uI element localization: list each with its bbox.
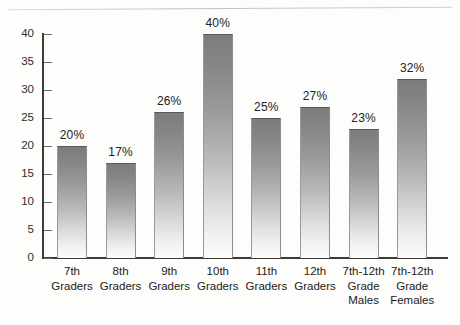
bar-value-label: 40% (195, 17, 241, 29)
y-axis-tick-label-wrap: 30 (4, 90, 34, 91)
category-label-line: Grade (381, 279, 443, 294)
bar (251, 118, 281, 258)
y-axis-tick (44, 174, 52, 175)
y-axis-tick-label: 20 (8, 140, 34, 152)
y-axis-tick (44, 90, 52, 91)
x-axis-line (42, 257, 448, 259)
bar (300, 107, 330, 258)
y-axis-tick-label: 30 (8, 84, 34, 96)
plot-area: 0510152025303540 20%17%26%40%25%27%23%32… (0, 0, 460, 325)
y-axis-tick (44, 146, 52, 147)
bar-value-label: 17% (98, 146, 144, 158)
bar (397, 79, 427, 258)
y-axis-tick-label-wrap: 0 (4, 258, 34, 259)
bar-value-label: 20% (49, 129, 95, 141)
y-axis-tick-label: 35 (8, 56, 34, 68)
bar-value-label: 25% (243, 101, 289, 113)
y-axis-tick-label-wrap: 5 (4, 230, 34, 231)
bar (203, 34, 233, 258)
y-axis-tick-label-wrap: 40 (4, 34, 34, 35)
bar-value-label: 27% (292, 90, 338, 102)
y-axis-tick (44, 62, 52, 63)
y-axis-tick (44, 258, 52, 259)
y-axis-tick-label-wrap: 25 (4, 118, 34, 119)
bar (154, 112, 184, 258)
bar-value-label: 23% (341, 112, 387, 124)
category-label-line: Females (381, 293, 443, 308)
y-axis-tick (44, 202, 52, 203)
y-axis-tick-label: 15 (8, 168, 34, 180)
y-axis-tick-label-wrap: 20 (4, 146, 34, 147)
y-axis-tick-label: 10 (8, 196, 34, 208)
y-axis-tick-label-wrap: 10 (4, 202, 34, 203)
bar-chart-figure: 0510152025303540 20%17%26%40%25%27%23%32… (0, 0, 460, 325)
y-axis-tick (44, 118, 52, 119)
bar (349, 129, 379, 258)
y-axis-tick (44, 34, 52, 35)
y-axis-tick (44, 230, 52, 231)
y-axis-tick-label: 25 (8, 112, 34, 124)
bar (106, 163, 136, 258)
y-axis-tick-label: 0 (8, 252, 34, 264)
bar-value-label: 32% (389, 62, 435, 74)
bar-value-label: 26% (146, 95, 192, 107)
x-axis-category-label: 7th-12thGradeFemales (381, 264, 443, 308)
y-axis-tick-label: 40 (8, 28, 34, 40)
category-label-line: 7th-12th (381, 264, 443, 279)
bar (57, 146, 87, 258)
y-axis-tick-label-wrap: 15 (4, 174, 34, 175)
y-axis-tick-label-wrap: 35 (4, 62, 34, 63)
y-axis-tick-label: 5 (8, 224, 34, 236)
